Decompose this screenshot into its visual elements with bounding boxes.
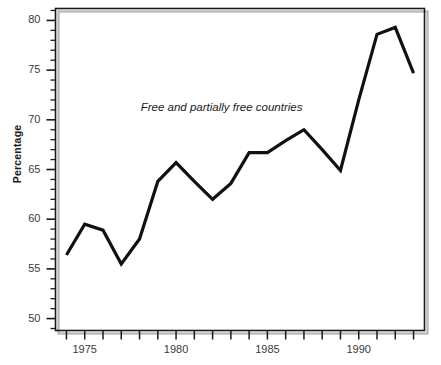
chart-figure: Percentage 50556065707580 19751980198519… — [0, 0, 441, 365]
data-series-group — [66, 27, 413, 264]
x-axis-ticks — [66, 331, 413, 340]
y-axis-ticks — [47, 10, 56, 328]
plot-canvas — [0, 0, 441, 365]
plot-frame-shadow — [59, 12, 428, 334]
